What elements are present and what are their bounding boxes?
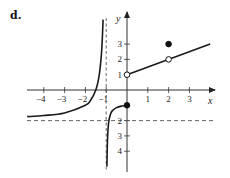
axes: xy−4−3−2−1123321234: [27, 12, 215, 172]
y-tick-label: 2: [118, 54, 123, 64]
function-graph: xy−4−3−2−1123321234: [0, 0, 230, 178]
x-tick-label: −2: [78, 94, 88, 104]
y-axis-label: y: [115, 13, 121, 24]
x-tick-label: −3: [57, 94, 67, 104]
filled-dot: [124, 103, 130, 109]
filled-dot: [166, 41, 172, 47]
x-tick-label: 2: [166, 94, 171, 104]
x-tick-label: 1: [146, 94, 151, 104]
x-axis-label: x: [207, 95, 213, 106]
open-dot: [166, 57, 172, 63]
x-tick-label: −4: [36, 94, 46, 104]
x-tick-label: 3: [187, 94, 192, 104]
y-tick-label: 1: [118, 70, 123, 80]
y-tick-label: 4: [118, 146, 123, 156]
open-dot: [124, 72, 130, 78]
y-tick-label: 3: [118, 131, 123, 141]
y-tick-label: 3: [118, 39, 123, 49]
